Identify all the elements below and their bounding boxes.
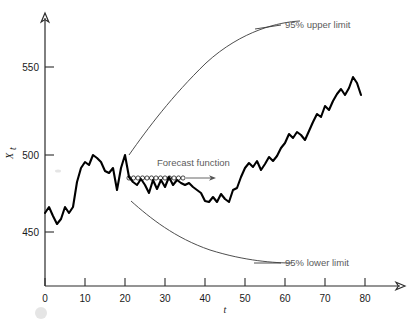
x-tick-label-70: 70 (319, 293, 331, 304)
y-axis-title-main: X (4, 152, 15, 160)
y-axis-title: X t (4, 147, 18, 160)
time-series-forecast-chart: 550 500 450 X t 0 10 20 30 40 50 60 70 8… (0, 0, 415, 324)
upper-limit-leader-line (255, 25, 281, 29)
y-tick-label-450: 450 (22, 227, 39, 238)
x-tick-label-30: 30 (159, 293, 171, 304)
scan-artifact-2 (55, 170, 61, 173)
lower-95-limit-curve (131, 201, 292, 263)
x-tick-label-80: 80 (359, 293, 371, 304)
upper-limit-label: 95% upper limit (285, 19, 351, 30)
x-tick-label-50: 50 (239, 293, 251, 304)
x-tick-label-40: 40 (199, 293, 211, 304)
y-tick-label-500: 500 (22, 150, 39, 161)
observed-series-line (45, 77, 361, 224)
x-tick-label-0: 0 (42, 293, 48, 304)
x-tick-label-60: 60 (279, 293, 291, 304)
forecast-function-label: Forecast function (157, 157, 230, 168)
y-tick-label-550: 550 (22, 62, 39, 73)
y-axis-title-subscript: t (7, 147, 18, 150)
x-tick-label-10: 10 (79, 293, 91, 304)
forecast-function-group: Forecast function (127, 157, 230, 181)
upper-95-limit-curve (129, 21, 300, 155)
scan-artifact (35, 307, 47, 319)
x-axis (45, 282, 405, 290)
x-axis-title: t (224, 304, 227, 315)
x-tick-label-20: 20 (119, 293, 131, 304)
lower-limit-label: 95% lower limit (285, 257, 349, 268)
y-axis (41, 13, 49, 286)
x-tick-marks (45, 278, 365, 286)
